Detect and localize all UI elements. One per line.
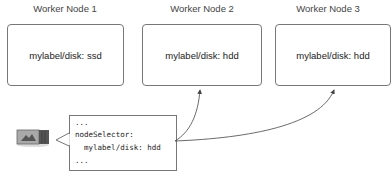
scheduling-arrows [0,0,392,178]
arrow-to-node-2 [175,90,200,141]
